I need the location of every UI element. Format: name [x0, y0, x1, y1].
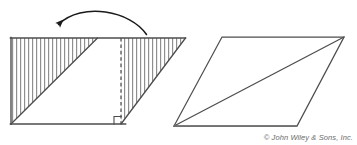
rotation-arrow-group [59, 11, 147, 34]
left-figure-group [10, 38, 185, 125]
figure-container: © John Wiley & Sons, Inc. [0, 0, 357, 145]
right-figure-group [174, 37, 344, 126]
right-angle-marker [114, 117, 121, 125]
rotation-arrow [59, 11, 147, 34]
geometry-figure [0, 0, 357, 145]
copyright-credit: © John Wiley & Sons, Inc. [264, 133, 353, 143]
